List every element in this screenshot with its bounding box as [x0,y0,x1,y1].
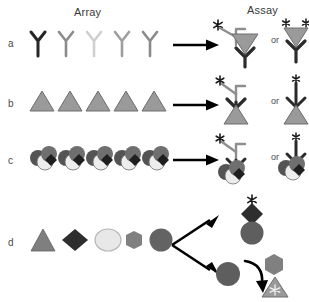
assay-row-b-variant-indirect [216,72,262,128]
diamond-compound-icon [62,229,88,251]
antigen-triangle-icon [224,105,248,124]
cell-cluster-icon [278,156,305,180]
primary-antibody-icon [287,83,305,107]
cell-cluster-icon [142,146,169,170]
assay-row-c-variant-direct [278,132,309,184]
array-row-d [28,224,168,258]
hexagon-substrate-icon [265,254,283,275]
cell-cluster-icon [114,146,141,170]
assay-row-a-variant-direct [283,18,309,66]
antigen-triangle-icon [58,91,82,111]
array-row-c [28,143,170,175]
cell-cluster-icon [58,146,85,170]
row-label-d: d [8,237,14,248]
antibody-y-icon [31,32,45,56]
antibody-y-icon [87,32,101,56]
arrow-row-a [172,38,220,52]
circle-target-icon [241,222,264,245]
array-row-b [28,88,168,116]
arrow-branch-up-icon [172,215,219,245]
or-separator-row-b: or [271,96,279,106]
row-label-b: b [8,98,14,109]
antigen-triangle-icon [30,91,54,111]
cell-cluster-icon [86,146,113,170]
antibody-y-icon [59,32,73,56]
figure-panel: Array Assay a [0,0,309,302]
circle-enzyme-icon [216,262,240,286]
cell-cluster-icon [218,160,245,184]
cell-cluster-icon [30,146,57,170]
hexagon-compound-icon [126,231,142,249]
arrow-right-icon [173,100,219,111]
antigen-triangle-icon [142,91,166,111]
arrow-row-c [172,153,220,167]
column-header-array: Array [74,6,101,18]
curved-arrow-icon [245,261,268,293]
array-row-a [28,28,168,64]
antibody-y-icon [143,32,157,56]
assay-row-c-variant-indirect [216,130,262,186]
antibody-y-icon [115,32,129,56]
triangle-compound-icon [31,229,55,251]
assay-row-b-variant-direct [283,74,309,128]
row-label-c: c [8,155,13,166]
circle-compound-icon [95,229,121,251]
triangle-product-icon [262,277,288,297]
antigen-triangle-icon [86,91,110,111]
antigen-triangle-icon [284,28,308,47]
label-star-icon [283,19,290,27]
arrow-row-b [172,98,220,112]
secondary-antibody-icon [222,142,245,160]
row-label-a: a [8,38,14,49]
antigen-triangle-icon [284,105,308,124]
assay-row-a-variant-sandwich [214,12,266,68]
antigen-triangle-icon [114,91,138,111]
label-star-icon [303,19,309,27]
or-separator-row-a: or [271,35,279,45]
arrow-right-icon [173,40,219,51]
assay-row-d-variant-enzymatic [212,252,302,300]
arrow-right-icon [173,155,219,166]
assay-row-d-variant-binding [236,194,270,246]
